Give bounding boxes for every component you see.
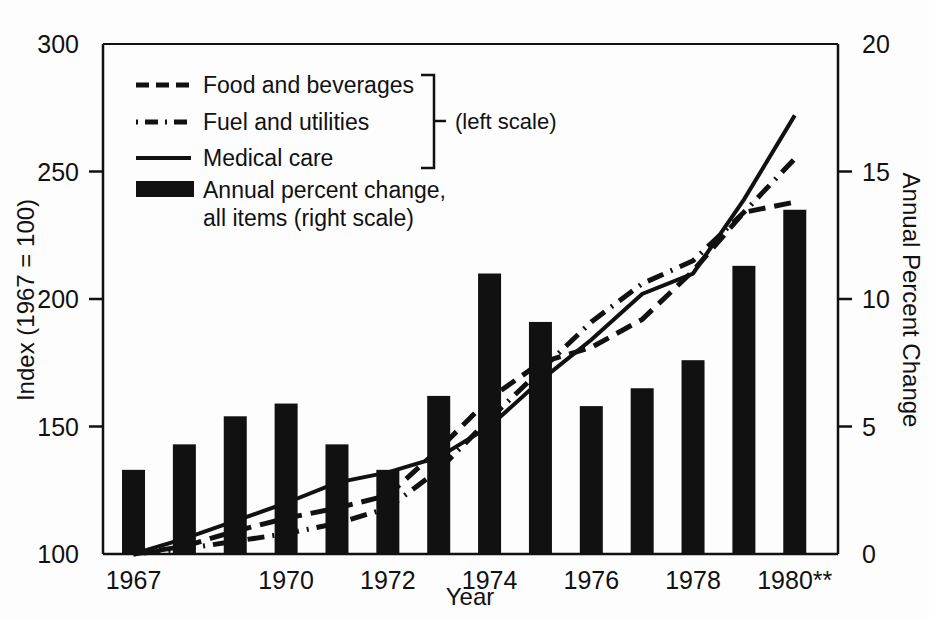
chart-figure: 100150200250300 05101520 196719701972197… (0, 0, 929, 619)
bar (529, 322, 552, 554)
bar (325, 444, 348, 554)
right-tick-label: 10 (862, 285, 890, 313)
legend-label-bars-line1: Annual percent change, (203, 177, 446, 203)
x-tick-label: 1978 (665, 566, 721, 594)
cpi-index-chart: 100150200250300 05101520 196719701972197… (0, 0, 929, 619)
left-tick-label: 150 (37, 413, 79, 441)
right-tick-label: 0 (862, 540, 876, 568)
right-axis-ticks (838, 172, 852, 427)
legend-label-medical: Medical care (203, 145, 333, 171)
x-tick-label: 1972 (360, 566, 416, 594)
bar (682, 360, 705, 554)
x-tick-label: 1980** (757, 566, 832, 594)
x-axis-title: Year (446, 583, 495, 610)
bar (580, 406, 603, 554)
x-tick-label: 1976 (563, 566, 619, 594)
bar (732, 266, 755, 554)
right-tick-label: 20 (862, 30, 890, 58)
right-axis-tick-labels: 05101520 (862, 30, 890, 568)
legend-swatch-bar (136, 181, 194, 197)
left-tick-label: 250 (37, 158, 79, 186)
legend-label-fuel: Fuel and utilities (203, 109, 369, 135)
left-tick-label: 100 (37, 540, 79, 568)
y-axis-title: Index (1967 = 100) (12, 199, 39, 401)
bar (224, 416, 247, 554)
left-tick-label: 300 (37, 30, 79, 58)
left-axis-tick-labels: 100150200250300 (37, 30, 79, 568)
legend-left-scale-note: (left scale) (455, 109, 556, 134)
y2-axis-title: Annual Percent Change (898, 173, 925, 428)
right-tick-label: 15 (862, 158, 890, 186)
bar (122, 470, 145, 554)
x-tick-label: 1970 (258, 566, 314, 594)
x-tick-label: 1967 (106, 566, 162, 594)
left-axis-ticks (89, 172, 103, 427)
bar (376, 470, 399, 554)
legend-label-bars-line2: all items (right scale) (203, 205, 414, 231)
legend-label-food: Food and beverages (203, 72, 414, 98)
bar (631, 388, 654, 554)
right-tick-label: 5 (862, 413, 876, 441)
legend-bracket (421, 75, 446, 168)
left-tick-label: 200 (37, 285, 79, 313)
legend: Food and beverages Fuel and utilities Me… (136, 72, 556, 231)
bar (783, 210, 806, 554)
bar (427, 396, 450, 554)
